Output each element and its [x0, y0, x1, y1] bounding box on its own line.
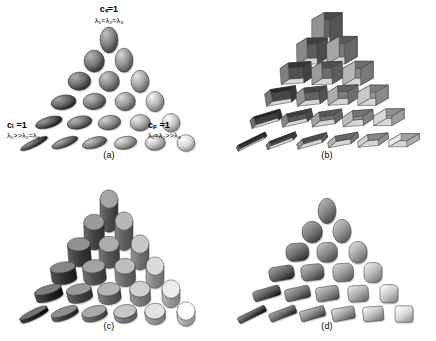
- glyph-d-r5-c5: [390, 294, 418, 334]
- glyph-d-r5-c4: [357, 295, 391, 333]
- left-label-a: cₗ =1 λ₁>>λ₂=λ₃: [7, 120, 40, 141]
- triangle-a: [0, 0, 218, 170]
- glyph-c-r5-c4: [139, 294, 173, 334]
- panel-c: (c): [0, 171, 218, 341]
- triangle-c: [0, 171, 218, 341]
- panel-b: (b): [218, 0, 436, 170]
- triangle-d: [218, 171, 436, 341]
- panel-caption-a: (a): [89, 150, 129, 160]
- panel-caption-b: (b): [307, 150, 347, 160]
- left-metric-a: cₗ =1: [7, 120, 40, 131]
- panel-d: (d): [218, 171, 436, 341]
- right-label-a: cₚ =1 λ₁=λ₂>>λ₃: [148, 120, 181, 141]
- panel-caption-c: (c): [89, 321, 129, 331]
- triangle-b: [218, 0, 436, 170]
- figure-canvas: cₛ=1 λ₁=λ₂=λ₃ cₗ =1 λ₁>>λ₂=λ₃ cₚ =1 λ₁=λ…: [0, 0, 436, 341]
- left-eigen-a: λ₁>>λ₂=λ₃: [7, 131, 40, 140]
- right-metric-a: cₚ =1: [148, 120, 181, 131]
- right-eigen-a: λ₁=λ₂>>λ₃: [148, 131, 181, 140]
- panel-a: cₛ=1 λ₁=λ₂=λ₃ cₗ =1 λ₁>>λ₂=λ₃ cₚ =1 λ₁=λ…: [0, 0, 218, 170]
- glyph-b-r5-c5: [377, 126, 431, 160]
- glyph-c-r5-c5: [172, 293, 200, 335]
- panel-caption-d: (d): [307, 321, 347, 331]
